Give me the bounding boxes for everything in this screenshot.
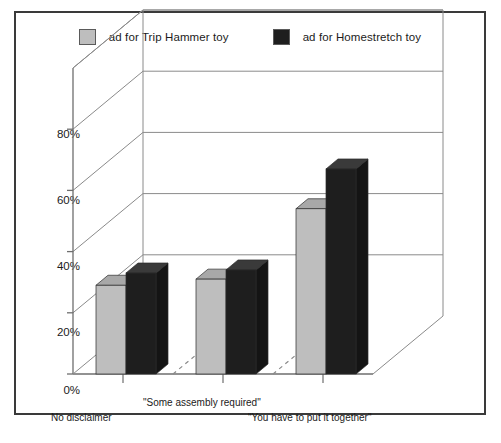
legend-swatch-dark-icon: [273, 29, 290, 45]
y-axis-tick-0: 0%: [34, 384, 80, 396]
x-axis-label-some-assembly: "Some assembly required": [143, 397, 261, 408]
y-axis-tick-40: 40%: [34, 260, 80, 272]
chart-frame: ad for Trip Hammer toy ad for Homestretc…: [14, 11, 486, 415]
legend-label-trip-hammer: ad for Trip Hammer toy: [109, 31, 229, 43]
y-axis-tick-60: 60%: [34, 194, 80, 206]
y-axis-tick-20: 20%: [34, 326, 80, 338]
legend-item-trip-hammer[interactable]: ad for Trip Hammer toy: [79, 29, 229, 45]
legend-swatch-light-icon: [79, 29, 96, 45]
x-axis-label-put-it-together: "You have to put it together": [248, 412, 372, 423]
chart-legend: ad for Trip Hammer toy ad for Homestretc…: [16, 29, 484, 45]
legend-label-homestretch: ad for Homestretch toy: [303, 31, 422, 43]
legend-item-homestretch[interactable]: ad for Homestretch toy: [273, 29, 422, 45]
y-axis-tick-80: 80%: [34, 128, 80, 140]
x-axis-label-no-disclaimer: No disclaimer: [51, 412, 112, 423]
